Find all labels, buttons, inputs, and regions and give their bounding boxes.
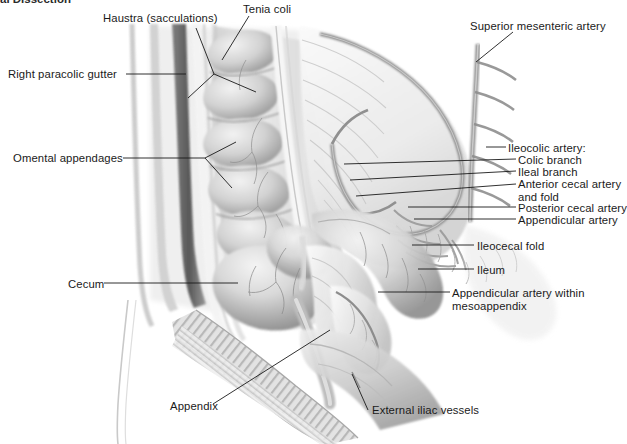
label-ileocecal-fold: Ileocecal fold (477, 240, 544, 253)
label-haustra: Haustra (sacculations) (103, 12, 218, 25)
label-cecum: Cecum (68, 278, 104, 291)
label-external-iliac-vessels: External iliac vessels (372, 404, 479, 417)
label-tenia-coli: Tenia coli (243, 3, 291, 16)
page-title: al Dissection (0, 0, 71, 5)
label-posterior-cecal-artery: Posterior cecal artery (518, 202, 627, 215)
label-ileal-branch: Ileal branch (518, 166, 578, 179)
label-appendix: Appendix (170, 400, 218, 413)
label-appendicular-artery: Appendicular artery (518, 214, 618, 227)
label-anterior-cecal-artery-and-fold: Anterior cecal artery and fold (518, 178, 621, 203)
label-superior-mesenteric-artery: Superior mesenteric artery (470, 20, 606, 33)
label-omental-appendages: Omental appendages (13, 152, 123, 165)
label-colic-branch: Colic branch (518, 154, 582, 167)
label-appendicular-artery-within-mesoappendix: Appendicular artery within mesoappendix (452, 287, 585, 312)
label-right-paracolic-gutter: Right paracolic gutter (8, 68, 117, 81)
label-ileum: Ileum (477, 264, 505, 277)
label-ileocolic-artery: Ileocolic artery: (508, 142, 586, 155)
